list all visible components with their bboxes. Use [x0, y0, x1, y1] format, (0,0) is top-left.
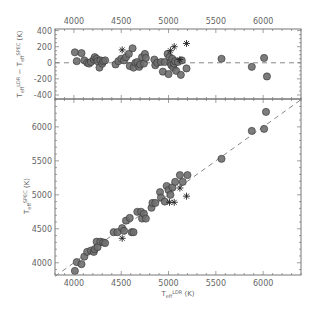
- data-point-circle: [71, 267, 78, 274]
- data-point-asterisk: [171, 199, 178, 206]
- data-point-circle: [71, 49, 78, 56]
- data-point-circle: [126, 214, 133, 221]
- data-point-circle: [261, 125, 268, 132]
- data-point-circle: [120, 227, 127, 234]
- y-tick-label-top: -400: [34, 91, 52, 100]
- x-tick-label-top: 4000: [64, 17, 84, 26]
- data-point-circle: [248, 63, 255, 70]
- data-point-circle: [179, 178, 186, 185]
- data-point-circle: [129, 45, 136, 52]
- data-point-asterisk: [183, 193, 190, 200]
- data-point-circle: [78, 50, 85, 57]
- data-point-circle: [218, 155, 225, 162]
- y-tick-label-top: -200: [34, 75, 52, 84]
- x-tick-label-bottom: 4500: [111, 279, 131, 288]
- data-point-circle: [176, 172, 183, 179]
- data-point-asterisk: [183, 40, 190, 47]
- data-point-circle: [142, 215, 149, 222]
- x-tick-label-bottom: 6000: [253, 279, 273, 288]
- x-tick-label-bottom: 4000: [64, 279, 84, 288]
- data-point-circle: [152, 199, 159, 206]
- data-point-circle: [130, 229, 137, 236]
- figure: 4000450050005500600040004500500055006000…: [0, 0, 315, 312]
- x-tick-label-bottom: 5000: [158, 279, 178, 288]
- data-point-circle: [102, 239, 109, 246]
- data-point-circle: [167, 191, 174, 198]
- data-point-circle: [261, 54, 268, 61]
- data-point-circle: [78, 261, 85, 268]
- y-tick-label-top: 0: [47, 59, 52, 68]
- data-point-circle: [183, 65, 190, 72]
- y-tick-label-bottom: 4000: [32, 259, 52, 268]
- data-point-circle: [184, 172, 191, 179]
- data-point-circle: [172, 178, 179, 185]
- x-tick-label-top: 5000: [158, 17, 178, 26]
- data-point-circle: [218, 55, 225, 62]
- y-tick-label-bottom: 5000: [32, 191, 52, 200]
- x-tick-label-top: 4500: [111, 17, 131, 26]
- data-point-circle: [177, 71, 184, 78]
- data-point-circle: [73, 58, 80, 65]
- bottom-panel-comparison: [55, 99, 302, 276]
- y-tick-label-top: 200: [37, 43, 52, 52]
- data-point-asterisk: [171, 43, 178, 50]
- x-tick-label-top: 5500: [206, 17, 226, 26]
- top-y-axis-title: TeffLDR − TeffSPEC (K): [15, 30, 25, 98]
- data-point-circle: [102, 57, 109, 64]
- y-tick-label-bottom: 6000: [32, 123, 52, 132]
- data-point-circle: [142, 54, 149, 61]
- y-tick-label-top: 400: [37, 27, 52, 36]
- data-point-circle: [248, 127, 255, 134]
- bottom-y-axis-title: TeffSPEC (K): [22, 178, 32, 215]
- x-axis-title: TeffLDR (K): [160, 289, 194, 299]
- y-tick-label-bottom: 5500: [32, 157, 52, 166]
- x-tick-label-bottom: 5500: [206, 279, 226, 288]
- data-point-asterisk: [176, 185, 183, 192]
- data-point-asterisk: [119, 235, 126, 242]
- data-point-circle: [165, 70, 172, 77]
- data-point-asterisk: [119, 46, 126, 53]
- top-panel-residuals: [55, 40, 301, 80]
- data-point-circle: [263, 73, 270, 80]
- data-point-circle: [262, 108, 269, 115]
- y-tick-label-bottom: 4500: [32, 225, 52, 234]
- x-tick-label-top: 6000: [253, 17, 273, 26]
